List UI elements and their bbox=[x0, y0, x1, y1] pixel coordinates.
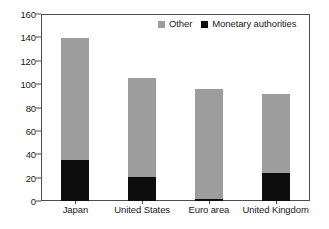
x-axis-tick-label: Japan bbox=[63, 204, 88, 215]
x-axis-tick-label: United States bbox=[114, 204, 170, 215]
y-axis-tick-mark bbox=[36, 201, 41, 202]
y-axis-tick-mark bbox=[36, 130, 41, 131]
y-axis-tick-mark bbox=[36, 84, 41, 85]
y-axis-tick-label: 100 bbox=[20, 79, 36, 90]
bar-segment-monetary-authorities bbox=[128, 177, 156, 201]
x-axis-tick-label: United Kingdom bbox=[243, 204, 309, 215]
legend-label-other: Other bbox=[169, 19, 192, 29]
x-axis-tick-label: Euro area bbox=[188, 204, 229, 215]
y-axis-tick-mark bbox=[36, 154, 41, 155]
bar-segment-monetary-authorities bbox=[61, 160, 89, 201]
legend-entry-other: Other bbox=[158, 19, 192, 29]
bar-stack bbox=[128, 15, 156, 201]
y-axis-tick-label: 120 bbox=[20, 55, 36, 66]
y-axis-tick-label: 80 bbox=[26, 102, 36, 113]
legend-swatch-other-icon bbox=[158, 21, 165, 28]
bar-segment-other bbox=[61, 38, 89, 160]
legend-entry-monetary-authorities: Monetary authorities bbox=[201, 19, 296, 29]
y-axis: 020406080100120140160 bbox=[0, 14, 41, 202]
y-axis-tick-label: 140 bbox=[20, 32, 36, 43]
legend-swatch-monetary-authorities-icon bbox=[201, 21, 208, 28]
y-axis-tick-mark bbox=[36, 37, 41, 38]
y-axis-tick-mark bbox=[36, 177, 41, 178]
y-axis-tick-label: 60 bbox=[26, 125, 36, 136]
y-axis-tick-label: 40 bbox=[26, 149, 36, 160]
y-axis-tick-mark bbox=[36, 14, 41, 15]
x-axis-labels: JapanUnited StatesEuro areaUnited Kingdo… bbox=[41, 204, 310, 226]
y-axis-tick-mark bbox=[36, 60, 41, 61]
bar-stack bbox=[61, 15, 89, 201]
bars-layer bbox=[42, 15, 309, 201]
y-axis-tick-mark bbox=[36, 107, 41, 108]
bar-stack bbox=[195, 15, 223, 201]
chart-legend: Other Monetary authorities bbox=[158, 19, 296, 29]
y-axis-tick-label: 160 bbox=[20, 9, 36, 20]
bar-segment-monetary-authorities bbox=[262, 173, 290, 201]
y-axis-tick-label: 20 bbox=[26, 172, 36, 183]
bar-segment-other bbox=[195, 89, 223, 198]
bar-segment-other bbox=[128, 78, 156, 177]
legend-label-monetary-authorities: Monetary authorities bbox=[212, 19, 296, 29]
stacked-bar-chart: 020406080100120140160 JapanUnited States… bbox=[0, 0, 329, 229]
bar-stack bbox=[262, 15, 290, 201]
bar-segment-other bbox=[262, 94, 290, 173]
